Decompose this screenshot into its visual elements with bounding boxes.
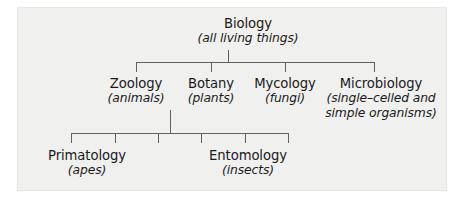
node-entomology: Entomology (insects) (193, 148, 303, 178)
node-entomology-label: Entomology (193, 148, 303, 163)
connector-level3-tick-5 (245, 133, 246, 143)
diagram-panel: Biology (all living things) Zoology (ani… (18, 8, 446, 190)
connector-level3-tick-3 (158, 133, 159, 143)
node-primatology: Primatology (apes) (31, 148, 143, 178)
node-botany-description: (plants) (169, 91, 253, 105)
connector-biology-stem (228, 50, 229, 62)
node-zoology-label: Zoology (91, 76, 181, 91)
connector-level2-tick-microbiology (374, 62, 375, 72)
node-zoology-description: (animals) (91, 91, 181, 105)
connector-zoology-stem (170, 110, 171, 133)
node-mycology-label: Mycology (242, 76, 328, 91)
node-biology-label: Biology (178, 16, 318, 31)
node-primatology-label: Primatology (31, 148, 143, 163)
node-mycology-description: (fungi) (242, 91, 328, 105)
connector-level3-tick-4 (201, 133, 202, 143)
node-entomology-description: (insects) (193, 163, 303, 177)
node-zoology: Zoology (animals) (91, 76, 181, 106)
node-biology-description: (all living things) (178, 31, 318, 45)
connector-level3-tick-1 (71, 133, 72, 143)
connector-level2-tick-zoology (136, 62, 137, 72)
node-biology: Biology (all living things) (178, 16, 318, 46)
connector-level3-tick-6 (288, 133, 289, 143)
connector-level2-bar (136, 62, 375, 63)
connector-level2-tick-mycology (285, 62, 286, 72)
node-botany-label: Botany (169, 76, 253, 91)
node-mycology: Mycology (fungi) (242, 76, 328, 106)
connector-level3-tick-2 (115, 133, 116, 143)
node-botany: Botany (plants) (169, 76, 253, 106)
node-microbiology-description-line1: (single–celled and (318, 91, 444, 105)
node-primatology-description: (apes) (31, 163, 143, 177)
node-microbiology-label: Microbiology (318, 76, 444, 91)
connector-level2-tick-botany (211, 62, 212, 72)
node-microbiology: Microbiology (single–celled and simple o… (318, 76, 444, 120)
connector-level3-bar (71, 133, 288, 134)
node-microbiology-description-line2: simple organisms) (318, 106, 444, 120)
